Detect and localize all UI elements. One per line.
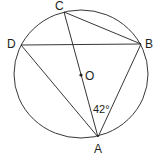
segment-da <box>21 45 98 137</box>
geometry-diagram: A B C D O 42° <box>0 0 157 157</box>
segment-ba <box>98 44 141 137</box>
label-a: A <box>94 142 102 156</box>
segment-db <box>21 44 141 45</box>
label-o: O <box>85 69 94 83</box>
label-c: C <box>55 0 64 13</box>
segment-cb <box>64 12 141 44</box>
label-d: D <box>7 37 16 51</box>
angle-label: 42° <box>93 103 110 115</box>
label-b: B <box>145 37 153 51</box>
center-point-o <box>79 73 82 76</box>
